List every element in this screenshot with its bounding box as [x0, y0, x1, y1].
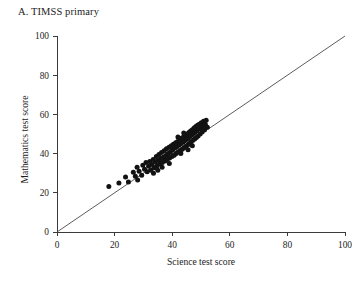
x-tick-label: 40: [168, 240, 178, 250]
x-axis-ticks: 020406080100: [55, 232, 353, 250]
data-point: [178, 151, 183, 156]
data-point: [139, 173, 144, 178]
data-point: [160, 165, 165, 170]
data-point: [116, 181, 121, 186]
data-point: [186, 147, 191, 152]
data-point: [126, 180, 131, 185]
data-point: [151, 171, 156, 176]
data-point: [204, 118, 209, 123]
scatter-plot-canvas: 020406080100 020406080100: [0, 0, 361, 281]
y-tick-label: 60: [40, 110, 50, 120]
data-point: [190, 143, 195, 148]
data-point: [205, 125, 210, 130]
x-tick-label: 60: [225, 240, 235, 250]
data-point: [181, 131, 186, 136]
x-tick-label: 80: [283, 240, 293, 250]
y-tick-label: 20: [40, 188, 50, 198]
data-point: [167, 161, 172, 166]
data-points-group: [106, 118, 209, 189]
y-tick-label: 40: [40, 149, 50, 159]
data-point: [106, 184, 111, 189]
y-tick-label: 0: [44, 227, 49, 237]
x-tick-label: 100: [338, 240, 352, 250]
y-tick-label: 80: [40, 71, 50, 81]
data-point: [135, 178, 140, 183]
y-tick-label: 100: [35, 31, 49, 41]
data-point: [175, 134, 180, 139]
x-tick-label: 20: [110, 240, 120, 250]
x-tick-label: 0: [55, 240, 60, 250]
data-point: [155, 168, 160, 173]
data-point: [123, 175, 128, 180]
chart-figure: A. TIMSS primary Mathematics test score …: [0, 0, 361, 281]
y-axis-ticks: 020406080100: [35, 31, 57, 237]
